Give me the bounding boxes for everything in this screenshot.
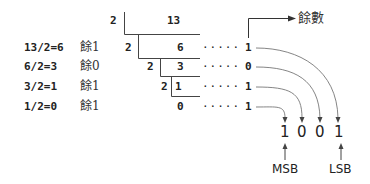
step-rem-4: 餘1 bbox=[80, 100, 100, 112]
result-bit-msb: 1 bbox=[280, 125, 290, 140]
ladder-divisor-1: 2 bbox=[110, 15, 117, 26]
step-rem-1: 餘1 bbox=[80, 41, 100, 53]
curve-bit-0 bbox=[256, 48, 338, 118]
dot-leader-3: ····· bbox=[202, 81, 240, 92]
heading-arrow-line bbox=[249, 19, 289, 39]
lsb-arrow-head bbox=[339, 143, 344, 149]
ladder-quotient-13: 13 bbox=[167, 15, 180, 26]
ladder-quotient-3: 3 bbox=[177, 61, 184, 72]
result-bit-2: 0 bbox=[297, 125, 307, 140]
remainder-4: 1 bbox=[245, 101, 252, 112]
curve-bit-3 bbox=[256, 107, 285, 118]
ladder-bracket-1 bbox=[125, 12, 201, 35]
remainder-3: 1 bbox=[245, 81, 252, 92]
curve-bit-2 bbox=[256, 87, 302, 118]
step-expr-1: 13/2=6 bbox=[24, 42, 64, 53]
remainder-1: 1 bbox=[245, 42, 252, 53]
ladder-divisor-2: 2 bbox=[125, 42, 132, 53]
ladder-divisor-4: 2 bbox=[161, 81, 168, 92]
ladder-bracket-2 bbox=[139, 35, 201, 59]
dot-leader-1: ····· bbox=[202, 42, 240, 53]
remainder-2: 0 bbox=[245, 61, 252, 72]
ladder-quotient-6: 6 bbox=[177, 42, 184, 53]
step-expr-2: 6/2=3 bbox=[24, 61, 57, 72]
remainder-heading: 餘數 bbox=[298, 11, 324, 24]
ladder-quotient-0: 0 bbox=[177, 101, 184, 112]
ladder-divisor-3: 2 bbox=[147, 61, 154, 72]
msb-label: MSB bbox=[272, 163, 298, 175]
dot-leader-2: ····· bbox=[202, 61, 240, 72]
step-rem-3: 餘1 bbox=[80, 80, 100, 92]
dot-leader-4: ····· bbox=[202, 101, 240, 112]
heading-arrow-head bbox=[288, 16, 296, 22]
curve-bit-1 bbox=[256, 67, 320, 118]
step-rem-2: 餘0 bbox=[80, 60, 100, 72]
result-bit-1: 0 bbox=[315, 125, 325, 140]
ladder-quotient-1: 1 bbox=[175, 81, 182, 92]
step-expr-3: 3/2=1 bbox=[24, 81, 57, 92]
step-expr-4: 1/2=0 bbox=[24, 101, 57, 112]
lsb-label: LSB bbox=[329, 163, 352, 175]
msb-arrow-head bbox=[283, 143, 288, 149]
result-bit-lsb: 1 bbox=[334, 125, 344, 140]
